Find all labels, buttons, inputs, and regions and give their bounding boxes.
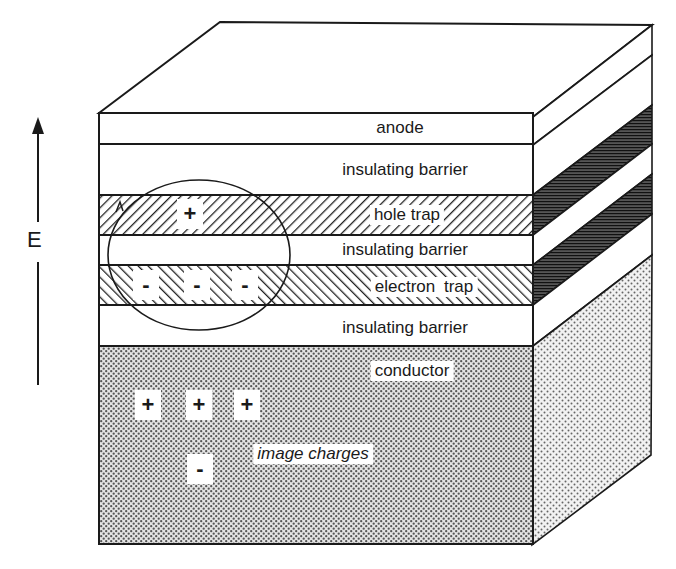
image-charge-plus: +	[186, 390, 212, 420]
electron-charge-minus: -	[232, 270, 258, 300]
field-label-e: E	[27, 226, 42, 254]
label-insulating-barrier-3: insulating barrier	[338, 318, 472, 338]
label-insulating-barrier-1: insulating barrier	[338, 160, 472, 180]
label-image-charges: image charges	[253, 444, 373, 464]
electron-charge-minus: -	[133, 270, 159, 300]
image-charge-plus: +	[234, 390, 260, 420]
layer-hole-trap	[99, 195, 533, 235]
electron-charge-minus: -	[184, 270, 210, 300]
label-conductor: conductor	[371, 361, 454, 381]
layer-anode	[99, 113, 533, 144]
field-arrowhead-icon	[32, 117, 44, 134]
hole-charge-plus: +	[177, 199, 203, 229]
label-electron-trap: electron trap	[371, 277, 478, 297]
image-charge-minus: -	[187, 454, 213, 484]
side-face	[532, 25, 652, 545]
label-hole-trap: hole trap	[370, 205, 444, 225]
device-diagram	[0, 0, 676, 569]
label-anode: anode	[372, 118, 427, 138]
image-charge-plus: +	[135, 390, 161, 420]
label-insulating-barrier-2: insulating barrier	[338, 240, 472, 260]
